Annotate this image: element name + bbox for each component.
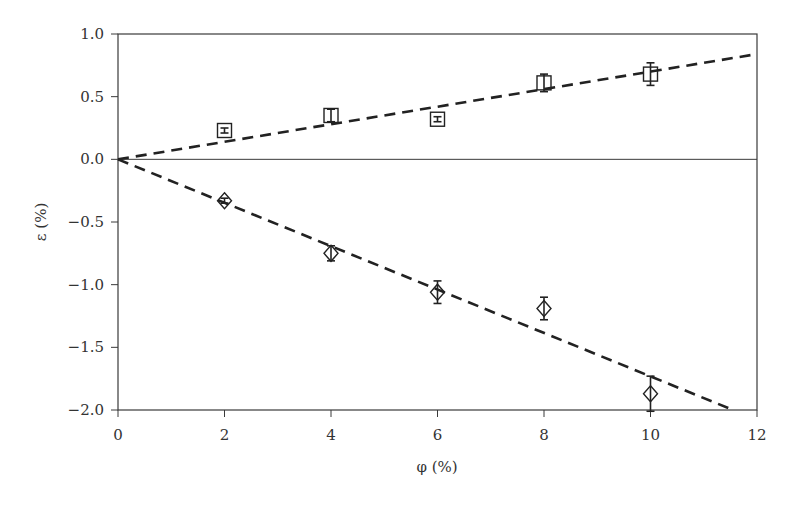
x-tick-label: 0 <box>113 426 123 444</box>
plot-border <box>118 34 757 410</box>
y-tick-label: 1.0 <box>80 25 104 43</box>
x-axis-label: φ (%) <box>416 458 457 476</box>
square-point <box>644 63 658 86</box>
square-point <box>431 112 445 126</box>
y-tick-label: 0.5 <box>80 88 104 106</box>
x-tick-label: 2 <box>220 426 230 444</box>
plot-frame <box>118 34 757 410</box>
diamond-point <box>537 297 551 320</box>
y-tick-label: 0.0 <box>80 150 104 168</box>
x-tick-label: 10 <box>641 426 660 444</box>
diamond-point <box>644 376 658 411</box>
x-tick-label: 8 <box>539 426 549 444</box>
x-tick-label: 4 <box>326 426 336 444</box>
y-axis-label: ε (%) <box>32 203 50 242</box>
lower-fit <box>118 159 733 410</box>
y-tick-label: −2.0 <box>68 401 104 419</box>
square-point <box>218 124 232 138</box>
y-tick-label: −1.5 <box>68 338 104 356</box>
chart: 0246810121.00.50.0−0.5−1.0−1.5−2.0 φ (%)… <box>0 0 799 511</box>
data-points <box>218 63 658 411</box>
upper-fit <box>118 54 757 159</box>
y-tick-label: −1.0 <box>68 276 104 294</box>
axis-ticks: 0246810121.00.50.0−0.5−1.0−1.5−2.0 <box>68 25 767 444</box>
x-tick-label: 12 <box>747 426 766 444</box>
y-tick-label: −0.5 <box>68 213 104 231</box>
fit-lines <box>118 54 757 410</box>
square-point <box>324 108 338 122</box>
x-tick-label: 6 <box>433 426 443 444</box>
